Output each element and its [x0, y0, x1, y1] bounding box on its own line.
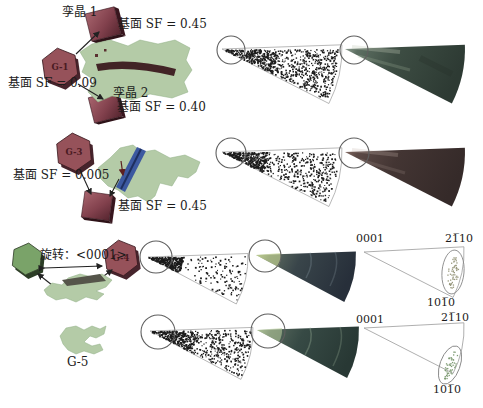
g5-schematic — [60, 326, 106, 354]
g1-twin1-label: 孪晶 1 — [62, 6, 97, 19]
g3-twin-cube — [81, 191, 116, 224]
g5-grain-map — [60, 326, 106, 354]
g1-twin2-label: 孪晶 2 — [113, 87, 148, 100]
g5-ipf-0001-label: 0001 — [356, 314, 384, 326]
g5-pole-figures — [141, 314, 466, 387]
figure-graphics: G-1 G-3 — [0, 0, 483, 408]
g3-basal-sf-label: 基面 SF = 0.005 — [13, 169, 109, 182]
g1-twin1-sf-label: 基面 SF = 0.45 — [118, 18, 207, 31]
g4-ipf-outline-wedge — [364, 247, 464, 298]
g3-hexagon-label: G-3 — [66, 147, 83, 157]
g5-ipf-2110-label: 21̅10 — [441, 312, 469, 324]
texture-apex-highlight — [257, 328, 282, 342]
g3-pole-figures — [216, 138, 465, 207]
g3-grain-map — [98, 145, 200, 202]
texture-apex-highlight — [256, 253, 281, 267]
g4-ipf-1010-label: 101̅0 — [427, 297, 455, 309]
g3-twin-sf-label: 基面 SF = 0.45 — [118, 200, 207, 213]
g5-grain-caption: G-5 — [67, 356, 89, 369]
g1-hexagon-label: G-1 — [52, 62, 69, 72]
g4-ipf-0001-label: 0001 — [356, 233, 384, 245]
g4-ipf-2110-label: 21̅10 — [445, 233, 473, 245]
g1-speck — [104, 49, 107, 52]
g5-ipf-1010-label: 101̅0 — [433, 384, 461, 396]
g3-colored-wedge — [345, 148, 465, 207]
g4-arrow-to-green-hex — [38, 274, 52, 285]
g1-pole-figures — [217, 36, 465, 104]
g1-twin2-sf-label: 基面 SF = 0.40 — [117, 101, 206, 114]
g1-basal-sf-label: 基面 SF = 0.09 — [8, 77, 97, 90]
g1-speck — [95, 54, 98, 57]
figure-canvas: G-1 G-3 — [0, 0, 483, 408]
g4-pole-figures — [140, 240, 466, 304]
g4-rotation-label: 旋转：<0001> — [40, 249, 127, 262]
g4-rotation-arrow — [44, 266, 102, 268]
